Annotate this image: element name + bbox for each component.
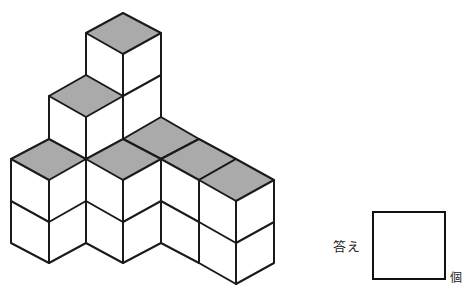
- answer-input-box[interactable]: [372, 211, 446, 280]
- unit-label: 個: [450, 268, 462, 285]
- cube-faces: [11, 13, 274, 201]
- cube-stack-figure: [0, 0, 300, 297]
- answer-label: 答え: [333, 236, 361, 255]
- cube-top-face: [11, 139, 86, 180]
- cube-top-face: [86, 13, 161, 54]
- cube-top-face: [49, 75, 123, 117]
